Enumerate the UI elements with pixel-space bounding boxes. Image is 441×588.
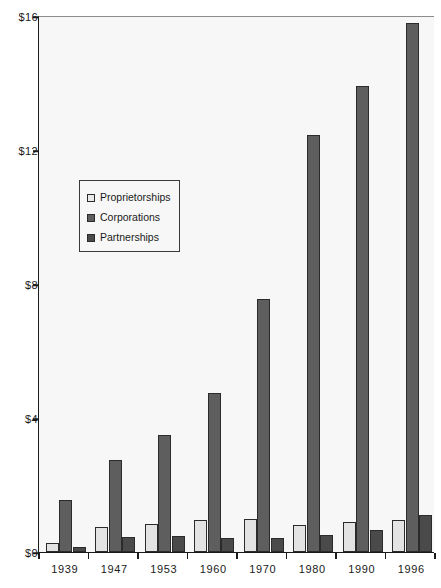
bar <box>221 538 234 552</box>
bar <box>59 500 72 552</box>
y-tick-label: $16 <box>6 12 38 23</box>
x-tick-mark <box>434 553 436 559</box>
legend-item-corporations: Corporations <box>87 208 179 227</box>
legend-swatch-proprietorships <box>87 194 95 202</box>
bar <box>370 530 383 552</box>
bar <box>307 135 320 552</box>
x-tick-label: 1939 <box>51 563 78 575</box>
bar <box>356 86 369 552</box>
y-tick-label: $12 <box>6 146 38 157</box>
legend-label-corporations: Corporations <box>100 212 160 223</box>
x-tick-mark <box>385 553 387 559</box>
legend-swatch-corporations <box>87 214 95 222</box>
bar <box>257 299 270 552</box>
x-tick-label: 1970 <box>249 563 276 575</box>
bar <box>95 527 108 552</box>
bar <box>293 525 306 552</box>
plot-area <box>38 17 434 553</box>
legend-label-proprietorships: Proprietorships <box>100 192 171 203</box>
x-tick-label: 1953 <box>150 563 177 575</box>
x-tick-mark <box>38 553 40 559</box>
bar <box>122 537 135 552</box>
legend-swatch-partnerships <box>87 234 95 242</box>
bar <box>244 519 257 553</box>
bar <box>271 538 284 552</box>
chart-legend: Proprietorships Corporations Partnership… <box>79 180 180 252</box>
legend-label-partnerships: Partnerships <box>100 232 159 243</box>
bar <box>158 435 171 552</box>
bar <box>419 515 432 552</box>
bar <box>194 520 207 552</box>
y-tick-label: $8 <box>6 280 38 291</box>
bar <box>392 520 405 552</box>
x-tick-mark <box>88 553 90 559</box>
bar <box>172 536 185 552</box>
bar <box>145 524 158 552</box>
legend-item-partnerships: Partnerships <box>87 228 179 247</box>
bar <box>73 547 86 552</box>
x-tick-label: 1960 <box>200 563 227 575</box>
y-tick-label: $4 <box>6 414 38 425</box>
x-tick-label: 1980 <box>299 563 326 575</box>
bar <box>343 522 356 552</box>
y-axis: $0$4$8$12$16 <box>0 0 38 588</box>
bar <box>208 393 221 552</box>
bar <box>406 23 419 552</box>
legend-item-proprietorships: Proprietorships <box>87 188 179 207</box>
x-tick-label: 1996 <box>398 563 425 575</box>
x-tick-mark <box>187 553 189 559</box>
bar <box>46 543 59 552</box>
x-tick-mark <box>236 553 238 559</box>
x-tick-label: 1990 <box>348 563 375 575</box>
x-tick-label: 1947 <box>101 563 128 575</box>
y-tick-label: $0 <box>6 548 38 559</box>
x-tick-mark <box>137 553 139 559</box>
bar <box>109 460 122 552</box>
x-tick-mark <box>286 553 288 559</box>
bar-chart: $0$4$8$12$16 193919471953196019701980199… <box>0 0 441 588</box>
x-tick-mark <box>335 553 337 559</box>
bar <box>320 535 333 552</box>
